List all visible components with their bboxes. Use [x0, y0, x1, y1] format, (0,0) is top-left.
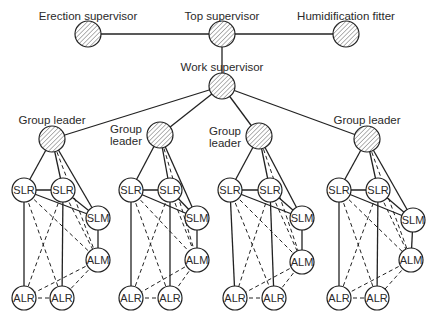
- group-2-alr1-node: ALR: [119, 286, 143, 310]
- group-4-alm-node-label: ALM: [400, 254, 423, 266]
- group-3-alr2-node: ALR: [262, 286, 286, 310]
- group-1-slr1-node-label: SLR: [13, 184, 34, 196]
- group-2-alr2-node-label: ALR: [159, 292, 180, 304]
- group-2-slr1-node-label: SLR: [120, 184, 141, 196]
- group-4-leader-node: [354, 126, 380, 152]
- group-3-alr2-node-label: ALR: [263, 292, 284, 304]
- group-3-slr1-node-label: SLR: [219, 184, 240, 196]
- group-4-slr1-node: SLR: [327, 178, 351, 202]
- edge-work-supervisor-to-group4: [222, 86, 367, 139]
- group-4-alr1-node-label: ALR: [328, 292, 349, 304]
- work-supervisor-node: [209, 73, 235, 99]
- group-1-edge-slr2-alr2: [62, 190, 63, 298]
- group-2-alr2-node: ALR: [158, 286, 182, 310]
- group-2-slm-node: SLM: [185, 206, 209, 230]
- group-4-leader-label: Group leader: [333, 114, 400, 126]
- group-1-alm-node: ALM: [86, 248, 110, 272]
- group-2-alm-node-label: ALM: [186, 254, 209, 266]
- group-4-slr2-node: SLR: [366, 178, 390, 202]
- group-2-alm-node: ALM: [185, 248, 209, 272]
- group-3-leader-label-line1: Group: [209, 125, 241, 137]
- group-3-edge-leader-slm: [259, 136, 302, 218]
- group-1-slm-node: SLM: [86, 206, 110, 230]
- group-2-slr2-node-label: SLR: [159, 184, 180, 196]
- group-3-slm-node-label: SLM: [291, 212, 314, 224]
- group-1-alr2-node-label: ALR: [51, 292, 72, 304]
- group-4-leader-node-circle: [354, 126, 380, 152]
- group-2-leader-label-line2: leader: [110, 135, 142, 147]
- erection-supervisor-node-circle: [75, 21, 101, 47]
- group-4-slm-node-label: SLM: [402, 214, 425, 226]
- group-2-slr1-node: SLR: [119, 178, 143, 202]
- group-1-leader-label: Group leader: [18, 114, 85, 126]
- group-1-leader-node-circle: [39, 126, 65, 152]
- group-1-alr1-node: ALR: [12, 286, 36, 310]
- humidification-fitter-node: [333, 21, 359, 47]
- group-1-leader-node: [39, 126, 65, 152]
- group-1-alm-node-label: ALM: [87, 254, 110, 266]
- group-4-edge-slr2-alr2: [377, 190, 378, 298]
- group-2-leader-label-line1: Group: [110, 123, 142, 135]
- organisation-diagram: SLRSLRSLMALMALRALRSLRSLRSLMALMALRALRSLRS…: [0, 0, 435, 316]
- humidification-fitter-label: Humidification fitter: [297, 10, 395, 22]
- group-1-slr2-node: SLR: [51, 178, 75, 202]
- group-3-slr1-node: SLR: [218, 178, 242, 202]
- group-3-leader-label-line2: leader: [209, 137, 241, 149]
- group-2-slm-node-label: SLM: [186, 212, 209, 224]
- group-2-edge-leader-slm: [160, 135, 197, 218]
- group-3-slr2-node: SLR: [258, 178, 282, 202]
- group-4-slm-node: SLM: [401, 208, 425, 232]
- erection-supervisor-node: [75, 21, 101, 47]
- group-3-slr2-node-label: SLR: [259, 184, 280, 196]
- humidification-fitter-node-circle: [333, 21, 359, 47]
- group-3-alr1-node-label: ALR: [224, 292, 245, 304]
- group-3-edge-slr1-alr1: [230, 190, 235, 298]
- work-supervisor-label: Work supervisor: [181, 61, 264, 73]
- group-4-alr2-node: ALR: [365, 286, 389, 310]
- group-3-slm-node: SLM: [290, 206, 314, 230]
- erection-supervisor-label: Erection supervisor: [39, 10, 138, 22]
- group-3-alm-node-label: ALM: [291, 256, 314, 268]
- group-4-alr1-node: ALR: [327, 286, 351, 310]
- group-4-slr1-node-label: SLR: [328, 184, 349, 196]
- group-2-leader-node: [147, 122, 173, 148]
- group-4-alm-node: ALM: [399, 248, 423, 272]
- group-2-slr2-node: SLR: [158, 178, 182, 202]
- top-supervisor-node: [209, 21, 235, 47]
- top-supervisor-node-circle: [209, 21, 235, 47]
- group-1-slr2-node-label: SLR: [52, 184, 73, 196]
- group-1-slr1-node: SLR: [12, 178, 36, 202]
- group-2-leader-node-circle: [147, 122, 173, 148]
- top-supervisor-label: Top supervisor: [185, 10, 260, 22]
- group-1-alr1-node-label: ALR: [13, 292, 34, 304]
- group-1-alr2-node: ALR: [50, 286, 74, 310]
- group-3-leader-node-circle: [246, 123, 272, 149]
- group-4-alr2-node-label: ALR: [366, 292, 387, 304]
- group-3-leader-node: [246, 123, 272, 149]
- work-supervisor-node-circle: [209, 73, 235, 99]
- group-3-alr1-node: ALR: [223, 286, 247, 310]
- group-3-alm-node: ALM: [290, 250, 314, 274]
- group-4-slr2-node-label: SLR: [367, 184, 388, 196]
- group-2-alr1-node-label: ALR: [120, 292, 141, 304]
- group-1-slm-node-label: SLM: [87, 212, 110, 224]
